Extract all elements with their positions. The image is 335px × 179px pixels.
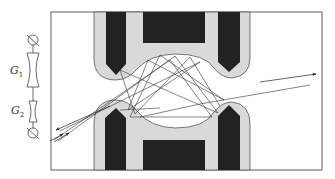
diagram-canvas: G1 G2: [0, 0, 335, 179]
label-g2: G2: [11, 104, 24, 119]
top-left-electrode: [106, 12, 126, 75]
bottom-right-electrode: [218, 105, 240, 170]
lens-g1-icon: [27, 53, 39, 87]
top-right-electrode: [218, 12, 240, 72]
top-center-electrode: [143, 12, 205, 43]
bottom-left-electrode: [105, 108, 126, 170]
bottom-center-electrode: [143, 140, 205, 170]
label-g1: G1: [10, 64, 23, 79]
left-circuit: [27, 35, 39, 139]
lens-g2-icon: [29, 101, 37, 122]
